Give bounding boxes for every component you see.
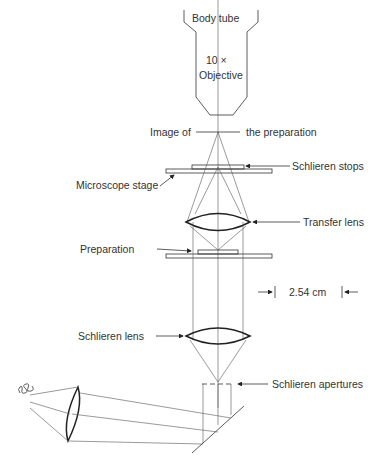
- arrow-preparation: [157, 249, 191, 251]
- source-rays: [30, 387, 78, 441]
- label-schlieren-lens: Schlieren lens: [78, 330, 144, 342]
- label-schlieren-stops: Schlieren stops: [292, 160, 364, 172]
- light-source-filament-icon: [19, 384, 34, 393]
- label-preparation: Preparation: [80, 243, 134, 255]
- aperture-verticals: [203, 384, 231, 443]
- label-objective-mag: 10 ×: [206, 54, 227, 66]
- label-transfer-lens: Transfer lens: [303, 216, 364, 228]
- label-dimension: 2.54 cm: [289, 286, 327, 298]
- label-image-of: Image of: [150, 126, 191, 138]
- preparation-slide: [166, 254, 272, 258]
- ray: [218, 340, 246, 382]
- label-body-tube: Body tube: [192, 12, 239, 24]
- ray: [190, 340, 218, 382]
- label-microscope-stage: Microscope stage: [76, 179, 158, 191]
- label-the-preparation: the preparation: [246, 126, 317, 138]
- lens-to-mirror-rays: [68, 393, 231, 444]
- label-schlieren-apertures: Schlieren apertures: [272, 378, 363, 390]
- schlieren-microscope-diagram: Body tube 10 × Objective Image of the pr…: [0, 0, 379, 462]
- arrow-microscope-stage: [160, 175, 174, 186]
- label-objective: Objective: [199, 69, 243, 81]
